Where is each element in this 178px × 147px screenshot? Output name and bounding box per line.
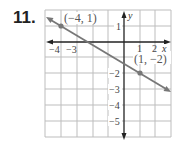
y-axis-up-arrow-icon	[122, 11, 127, 18]
coordinate-graph: −4 −3 1 2 x y 1 −2 −3 −4 −5 (−4, 1) (1, …	[0, 0, 178, 147]
y-axis-label: y	[127, 10, 133, 21]
point-label-neg4-1: (−4, 1)	[64, 11, 97, 25]
y-tick-neg2: −2	[109, 68, 120, 79]
y-tick-neg5: −5	[109, 116, 120, 127]
x-tick-neg3: −3	[66, 44, 77, 55]
point-1-neg2	[137, 70, 142, 75]
y-tick-neg3: −3	[109, 84, 120, 95]
y-tick-neg4: −4	[109, 100, 120, 111]
point-label-1-neg2: (1, −2)	[134, 52, 167, 66]
y-tick-1: 1	[116, 21, 121, 32]
x-tick-neg4: −4	[49, 44, 60, 55]
point-neg4-1	[58, 23, 63, 28]
